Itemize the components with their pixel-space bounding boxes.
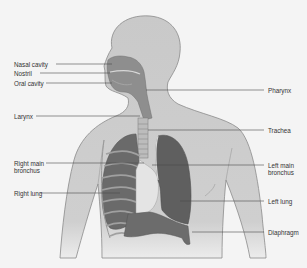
label-left-main-bronchus: Left main bronchus <box>268 162 294 176</box>
label-line-2: bronchus <box>268 169 294 176</box>
label-line-2: bronchus <box>14 167 44 174</box>
anatomy-illustration <box>0 0 307 268</box>
label-oral-cavity: Oral cavity <box>14 80 44 87</box>
label-nasal-cavity: Nasal cavity <box>14 61 48 68</box>
label-diaphragm: Diaphragm <box>268 229 299 236</box>
label-right-main-bronchus: Right main bronchus <box>14 160 44 174</box>
label-right-lung: Right lung <box>14 190 42 197</box>
label-line-1: Left main <box>268 162 294 169</box>
label-left-lung: Left lung <box>268 198 292 205</box>
respiratory-diagram: Nasal cavity Nostril Oral cavity Larynx … <box>0 0 307 268</box>
label-line-1: Right main <box>14 160 44 167</box>
label-nostril: Nostril <box>14 70 32 77</box>
label-larynx: Larynx <box>14 113 33 120</box>
label-trachea: Trachea <box>268 127 291 134</box>
label-pharynx: Pharynx <box>268 87 291 94</box>
